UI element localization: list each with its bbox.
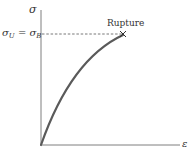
stress-strain-curve <box>41 35 123 145</box>
stress-strain-diagram: σ ε Rupture σU = σB <box>0 0 191 152</box>
diagram-canvas <box>0 0 191 152</box>
y-axis-label: σ <box>29 4 37 15</box>
subscript-b: B <box>36 32 41 40</box>
sigma-symbol: σ <box>2 27 9 38</box>
ultimate-stress-label: σU = σB <box>2 28 41 40</box>
x-axis-label: ε <box>182 139 187 149</box>
rupture-label: Rupture <box>107 19 144 28</box>
equals-sign: = <box>15 27 30 38</box>
